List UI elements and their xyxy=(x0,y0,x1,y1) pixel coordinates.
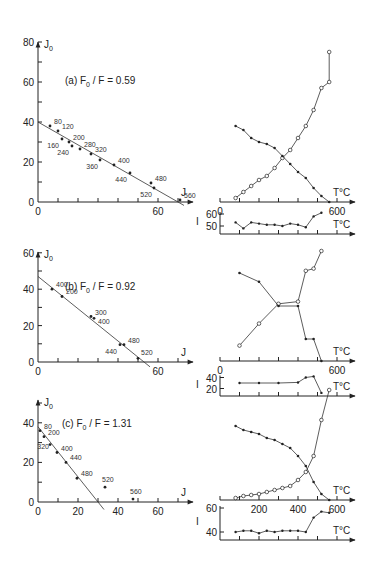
j0-point xyxy=(305,465,308,468)
panel-title: (c) F0 / F = 1.31 xyxy=(62,418,132,431)
figure: 060020406080J0J(a) F0 / F = 0.5980120160… xyxy=(0,0,381,565)
t-axis-label: T°C xyxy=(333,485,350,496)
i-point xyxy=(305,531,307,533)
point-label: 440 xyxy=(70,454,82,461)
j-point xyxy=(320,86,324,90)
j0-point xyxy=(320,360,323,363)
y-tick-label: 0 xyxy=(28,357,34,368)
point-label: 400 xyxy=(56,281,68,288)
j0-point xyxy=(289,163,292,166)
x-tick-label: 0 xyxy=(35,206,41,217)
j-point xyxy=(288,148,292,152)
x-tick-label: 0 xyxy=(35,366,41,377)
data-point xyxy=(79,148,82,151)
y-axis-label: J0 xyxy=(44,397,53,410)
j0-point xyxy=(234,125,237,128)
i-point xyxy=(289,530,291,532)
data-point xyxy=(65,461,68,464)
j0-point xyxy=(312,187,315,190)
data-point xyxy=(123,343,126,346)
j-point xyxy=(312,108,316,112)
data-point xyxy=(76,477,79,480)
j0-point xyxy=(242,429,245,432)
x-axis-label: J xyxy=(181,487,186,498)
i-point xyxy=(320,392,322,394)
j0-point xyxy=(328,499,331,502)
j-point xyxy=(273,166,277,170)
i-tick-label: 60 xyxy=(206,503,218,514)
j0-point xyxy=(258,433,261,436)
i-t-axis-label: T°C xyxy=(333,525,350,536)
i-point xyxy=(297,381,299,383)
j-point xyxy=(257,322,261,326)
i-tick-label: 40 xyxy=(206,527,218,538)
data-point xyxy=(49,125,52,128)
point-label: 400 xyxy=(61,445,73,452)
j-point xyxy=(296,300,300,304)
j-point xyxy=(257,178,261,182)
t-tick-label: 600 xyxy=(329,365,346,376)
i-point xyxy=(289,222,291,224)
t-tick-label: 600 xyxy=(329,504,346,515)
j-point xyxy=(327,80,331,84)
j-point xyxy=(327,50,331,54)
i-point xyxy=(242,530,244,532)
j0-point xyxy=(277,305,280,308)
j-point xyxy=(304,470,308,474)
i-t-axis-label: T°C xyxy=(333,219,350,230)
j0-curve xyxy=(240,273,322,361)
j-point xyxy=(320,418,324,422)
y-tick-label: 60 xyxy=(23,248,35,259)
i-point xyxy=(320,212,322,214)
data-point xyxy=(61,138,64,141)
j-point xyxy=(296,478,300,482)
i-point xyxy=(312,215,314,217)
point-label: 160 xyxy=(47,142,59,149)
j0-point xyxy=(250,137,253,140)
point-label: 200 xyxy=(48,429,60,436)
data-point xyxy=(179,199,182,202)
j-point xyxy=(288,484,292,488)
panel-c-right-J: 200400600T°C4060IT°C xyxy=(196,388,355,540)
i-point xyxy=(312,375,314,377)
data-point xyxy=(56,451,59,454)
i-point xyxy=(266,530,268,532)
data-point xyxy=(119,343,122,346)
j0-curve xyxy=(236,126,330,202)
i-point xyxy=(258,222,260,224)
data-point xyxy=(129,172,132,175)
x-tick-label: 40 xyxy=(112,506,124,517)
point-label: 480 xyxy=(155,175,167,182)
i-point xyxy=(305,376,307,378)
j-point xyxy=(320,249,324,253)
data-point xyxy=(104,486,107,489)
t-axis-label: T°C xyxy=(333,346,350,357)
j-point xyxy=(265,174,269,178)
point-label: 320 xyxy=(95,146,107,153)
data-point xyxy=(43,435,46,438)
j0-point xyxy=(234,425,237,428)
j-point xyxy=(281,486,285,490)
j0-point xyxy=(242,129,245,132)
i-point xyxy=(234,531,236,533)
point-label: 200 xyxy=(66,288,78,295)
t-tick-label: 200 xyxy=(251,504,268,515)
j0-point xyxy=(328,201,331,204)
point-label: 360 xyxy=(86,163,98,170)
i-tick-label: 40 xyxy=(206,373,218,384)
i-point xyxy=(273,531,275,533)
i-axis-label: I xyxy=(196,379,199,390)
fit-line xyxy=(38,122,184,205)
point-label: 480 xyxy=(81,470,93,477)
y-tick-label: 20 xyxy=(23,157,35,168)
i-point xyxy=(266,224,268,226)
j-point xyxy=(312,454,316,458)
i-point xyxy=(281,530,283,532)
j-curve xyxy=(240,251,322,346)
j-point xyxy=(296,136,300,140)
data-point xyxy=(57,130,60,133)
data-point xyxy=(90,315,93,318)
data-point xyxy=(51,288,54,291)
data-point xyxy=(93,317,96,320)
i-point xyxy=(328,512,330,514)
